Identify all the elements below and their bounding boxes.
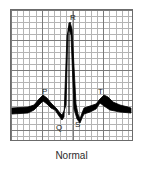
wave-label-t: T <box>98 88 103 96</box>
ecg-waveform-path <box>12 22 131 123</box>
ecg-figure: P Q R S T Normal <box>0 0 143 173</box>
wave-label-q: Q <box>56 124 62 132</box>
wave-label-p: P <box>42 88 47 96</box>
wave-label-s: S <box>75 121 80 129</box>
figure-caption: Normal <box>0 150 143 161</box>
wave-label-r: R <box>70 14 76 22</box>
ecg-trace <box>10 9 133 141</box>
